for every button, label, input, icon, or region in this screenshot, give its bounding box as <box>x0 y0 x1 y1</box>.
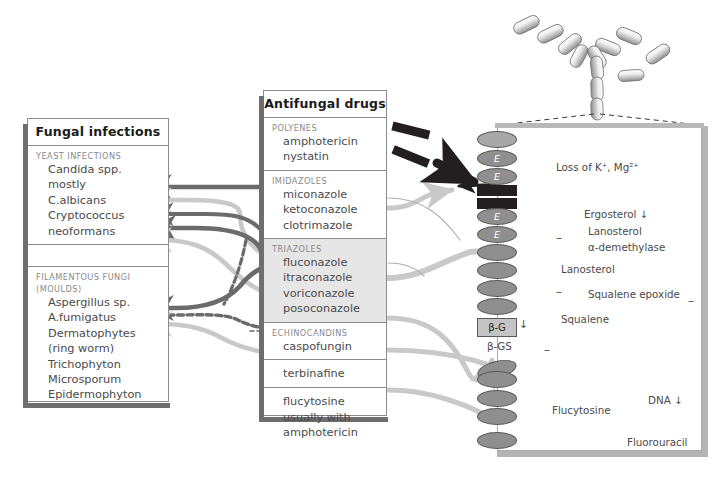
inhibition-sign: – <box>688 294 694 308</box>
antifungal-drugs-panel: Antifungal drugs POLYENES amphotericin n… <box>263 90 387 416</box>
label-beta-gs: β-GS <box>487 340 512 352</box>
list-item: flucytosine <box>272 394 386 409</box>
figure-canvas: Fungal infections YEAST INFECTIONS Candi… <box>0 0 722 479</box>
list-item: (ring worm) <box>36 341 168 356</box>
list-item: amphotericin <box>272 134 386 149</box>
section-flucytosine: flucytosine usually with amphotericin <box>264 388 386 445</box>
list-item: usually with <box>272 410 386 425</box>
fungus-illustration <box>512 13 672 120</box>
section-yeast-infections: YEAST INFECTIONS Candida spp. mostly C.a… <box>28 146 168 245</box>
membrane-lipid <box>477 390 517 407</box>
list-item: Cryptococcus <box>36 208 168 223</box>
membrane-marker-label: E <box>478 151 516 166</box>
beta-g-down-arrow: ↓ <box>519 318 528 331</box>
list-item: Candida spp. <box>36 162 168 177</box>
section-caption-echinocandins: ECHINOCANDINS <box>272 327 386 339</box>
list-item: Epidermophyton <box>36 387 168 402</box>
list-item: C.albicans <box>36 193 168 208</box>
amphotericin-slabs <box>391 122 430 168</box>
membrane-lipid <box>477 244 517 261</box>
label-dna: DNA ↓ <box>648 394 683 406</box>
list-item: Aspergillus sp. <box>36 295 168 310</box>
label-squalene-epoxide: Squalene epoxide <box>588 288 680 300</box>
inhibition-sign: – <box>556 231 562 245</box>
membrane-ergosterol: E <box>477 168 517 185</box>
membrane-ergosterol: E <box>477 208 517 225</box>
arrow-slab-into-membrane <box>437 163 474 182</box>
membrane-ergosterol: E <box>477 226 517 243</box>
membrane-lipid <box>477 408 517 425</box>
membrane-marker-label: E <box>478 227 516 242</box>
list-item: A.fumigatus <box>36 310 168 325</box>
list-item: posoconazole <box>272 301 386 316</box>
list-item: fluconazole <box>272 255 386 270</box>
list-item: nystatin <box>272 149 386 164</box>
line-ketoconazole <box>388 198 460 240</box>
section-caption-filamentous-l1: FILAMENTOUS FUNGI <box>36 271 168 283</box>
label-lanosterol-demethylase-line2: α-demethylase <box>588 241 665 253</box>
list-item: caspofungin <box>272 339 386 354</box>
list-item: amphotericin <box>272 425 386 440</box>
section-filamentous-fungi: FILAMENTOUS FUNGI (MOULDS) Aspergillus s… <box>28 267 168 408</box>
section-imidazoles: IMIDAZOLES miconazole ketoconazole clotr… <box>264 171 386 239</box>
section-caption-filamentous-l2: (MOULDS) <box>36 283 168 295</box>
section-caption-yeast: YEAST INFECTIONS <box>36 150 168 162</box>
membrane-lipid <box>477 371 517 388</box>
label-flucytosine: Flucytosine <box>552 404 611 416</box>
list-item: ketoconazole <box>272 202 386 217</box>
section-caption-triazoles: TRIAZOLES <box>272 243 386 255</box>
list-item: Trichophyton <box>36 357 168 372</box>
fungal-infections-title: Fungal infections <box>28 119 168 146</box>
membrane-lipid <box>477 262 517 279</box>
section-echinocandins: ECHINOCANDINS caspofungin <box>264 323 386 360</box>
section-terbinafine: terbinafine <box>264 360 386 388</box>
label-lanosterol-demethylase-line1: Lanosterol <box>588 225 642 237</box>
list-item: itraconazole <box>272 270 386 285</box>
list-item: clotrimazole <box>272 218 386 233</box>
membrane-lipid <box>477 280 517 297</box>
label-squalene: Squalene <box>561 313 609 325</box>
label-fluorouracil: Fluorouracil <box>627 436 687 448</box>
list-item: terbinafine <box>272 366 386 381</box>
section-triazoles: TRIAZOLES fluconazole itraconazole voric… <box>264 239 386 323</box>
membrane-lipid <box>477 298 517 315</box>
beta-glucan-box: β-G <box>477 318 517 337</box>
membrane-marker-label: E <box>478 169 516 184</box>
membrane-lipid <box>477 131 517 148</box>
membrane-marker-label: E <box>478 209 516 224</box>
membrane-lipid <box>477 432 517 449</box>
antifungal-drugs-title: Antifungal drugs <box>264 91 386 118</box>
list-item: Dermatophytes <box>36 326 168 341</box>
section-caption-polyenes: POLYENES <box>272 122 386 134</box>
fungal-infections-panel: Fungal infections YEAST INFECTIONS Candi… <box>27 118 169 402</box>
list-item: neoformans <box>36 224 168 239</box>
list-item: voriconazole <box>272 286 386 301</box>
list-item: mostly <box>36 177 168 192</box>
amphotericin-pore <box>477 185 517 196</box>
section-spacer <box>28 245 168 267</box>
label-loss-of-ions: Loss of K⁺, Mg²⁺ <box>556 161 639 173</box>
inhibition-sign: – <box>556 285 562 299</box>
membrane-ergosterol: E <box>477 150 517 167</box>
section-polyenes: POLYENES amphotericin nystatin <box>264 118 386 171</box>
list-item: miconazole <box>272 187 386 202</box>
section-caption-imidazoles: IMIDAZOLES <box>272 175 386 187</box>
label-lanosterol: Lanosterol <box>561 263 615 275</box>
list-item: Microsporum <box>36 372 168 387</box>
inhibition-sign: – <box>544 343 550 357</box>
cell-top-edge <box>495 123 704 128</box>
label-ergosterol: Ergosterol ↓ <box>584 208 648 220</box>
